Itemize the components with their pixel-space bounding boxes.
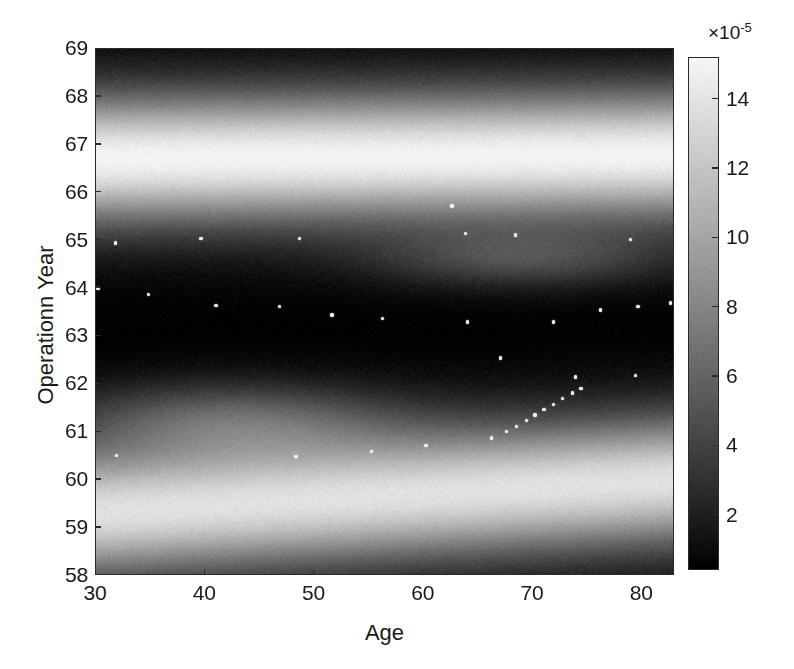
y-tick-label: 66 bbox=[65, 181, 88, 202]
y-tick-mark bbox=[95, 383, 101, 384]
colorbar-tick-mark bbox=[712, 306, 719, 307]
colorbar-tick-label: 8 bbox=[726, 296, 737, 317]
x-tick-mark bbox=[641, 569, 642, 575]
y-tick-label: 67 bbox=[65, 133, 88, 154]
y-tick-label: 69 bbox=[65, 37, 88, 58]
x-tick-label: 30 bbox=[65, 582, 125, 603]
colorbar-tick-label: 12 bbox=[726, 157, 749, 178]
y-tick-label: 68 bbox=[65, 85, 88, 106]
colorbar-tick-mark bbox=[712, 167, 719, 168]
y-tick-mark bbox=[95, 431, 101, 432]
density-heatmap bbox=[96, 49, 673, 574]
x-tick-mark bbox=[422, 569, 423, 575]
x-tick-mark bbox=[531, 569, 532, 575]
y-tick-label: 65 bbox=[65, 229, 88, 250]
heatmap-plot-area[interactable] bbox=[95, 48, 674, 575]
colorbar-exponent-value: -5 bbox=[740, 20, 752, 35]
x-axis-label: Age bbox=[95, 620, 674, 646]
figure-canvas: Operationn Year 585960616263646566676869… bbox=[0, 0, 794, 669]
colorbar-exponent-label: ×10-5 bbox=[708, 20, 752, 44]
colorbar-tick-mark bbox=[712, 98, 719, 99]
x-tick-label: 50 bbox=[283, 582, 343, 603]
y-tick-mark bbox=[95, 287, 101, 288]
colorbar-tick-label: 2 bbox=[726, 504, 737, 525]
y-tick-mark bbox=[95, 526, 101, 527]
x-tick-label: 80 bbox=[611, 582, 671, 603]
x-tick-mark bbox=[204, 569, 205, 575]
y-tick-mark bbox=[95, 95, 101, 96]
x-tick-mark bbox=[313, 569, 314, 575]
x-tick-label: 40 bbox=[174, 582, 234, 603]
y-tick-mark bbox=[95, 191, 101, 192]
y-tick-label: 59 bbox=[65, 516, 88, 537]
x-tick-label: 60 bbox=[393, 582, 453, 603]
y-tick-mark bbox=[95, 239, 101, 240]
colorbar-tick-label: 14 bbox=[726, 88, 749, 109]
y-tick-mark bbox=[95, 478, 101, 479]
x-tick-label: 70 bbox=[502, 582, 562, 603]
colorbar-tick-label: 4 bbox=[726, 434, 737, 455]
colorbar-gradient bbox=[689, 58, 718, 569]
y-tick-label: 62 bbox=[65, 372, 88, 393]
colorbar[interactable] bbox=[688, 57, 719, 570]
colorbar-tick-label: 6 bbox=[726, 365, 737, 386]
y-tick-mark bbox=[95, 335, 101, 336]
colorbar-tick-mark bbox=[712, 237, 719, 238]
y-tick-label: 63 bbox=[65, 324, 88, 345]
y-tick-mark bbox=[95, 143, 101, 144]
colorbar-tick-mark bbox=[712, 514, 719, 515]
y-tick-label: 61 bbox=[65, 420, 88, 441]
colorbar-tick-label: 10 bbox=[726, 226, 749, 247]
y-axis-label: Operationn Year bbox=[33, 175, 59, 475]
colorbar-tick-mark bbox=[712, 445, 719, 446]
colorbar-tick-mark bbox=[712, 375, 719, 376]
y-tick-label: 60 bbox=[65, 468, 88, 489]
y-tick-label: 64 bbox=[65, 277, 88, 298]
